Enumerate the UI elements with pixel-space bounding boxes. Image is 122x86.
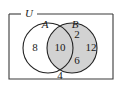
set-a-label: A <box>41 18 49 30</box>
region-value-b-only-top: 2 <box>74 28 80 40</box>
universe-label: U <box>25 7 34 19</box>
region-value-b-only-bottom: 6 <box>74 54 80 66</box>
region-value-b-only-right: 12 <box>86 41 97 53</box>
venn-diagram-figure: U A B 8 10 2 12 6 4 <box>0 0 122 86</box>
venn-diagram-canvas: U A B 8 10 2 12 6 4 <box>0 0 122 86</box>
region-value-outside: 4 <box>57 69 63 81</box>
region-value-a-only: 8 <box>32 41 38 53</box>
region-value-intersection: 10 <box>55 41 67 53</box>
